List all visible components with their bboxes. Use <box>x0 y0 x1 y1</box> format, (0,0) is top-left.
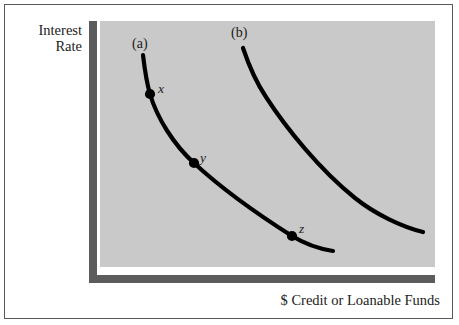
x-axis-label: $ Credit or Loanable Funds <box>200 292 440 309</box>
curve-label-b: (b) <box>231 25 247 41</box>
curve-label-a: (a) <box>132 36 148 52</box>
point-label-y: y <box>200 150 206 166</box>
point-label-z: z <box>299 221 304 237</box>
y-axis-bar <box>89 21 97 283</box>
y-axis-label: Interest Rate <box>10 22 82 54</box>
plot-area <box>100 21 435 267</box>
x-axis-bar <box>89 275 435 283</box>
point-label-x: x <box>158 81 164 97</box>
credit-demand-figure: Interest Rate $ Credit or Loanable Funds… <box>0 0 459 325</box>
